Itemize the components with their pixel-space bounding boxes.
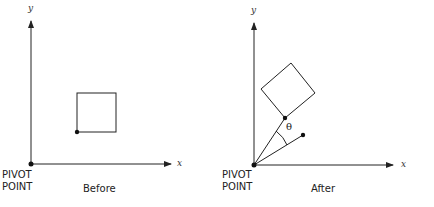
after-original-dot: [301, 133, 305, 137]
after-pivot-dot: [252, 163, 257, 168]
after-pivot-label-2: POINT: [222, 181, 252, 193]
after-rotated-dot: [283, 116, 287, 120]
after-original-line: [254, 135, 303, 165]
after-panel: [252, 23, 394, 168]
after-rotated-square: [261, 63, 315, 118]
theta-label: θ: [286, 121, 292, 132]
after-x-label: x: [401, 159, 406, 169]
before-pivot-dot: [29, 162, 34, 167]
before-square: [77, 93, 116, 132]
angle-arc: [276, 131, 287, 145]
after-caption: After: [311, 183, 335, 195]
before-x-label: x: [177, 158, 182, 168]
after-y-label: y: [251, 5, 256, 15]
after-pivot-label-1: PIVOT: [222, 169, 252, 181]
rotation-diagram: [0, 0, 434, 207]
before-pivot-label-1: PIVOT: [2, 169, 32, 181]
before-caption: Before: [83, 183, 116, 195]
before-panel: [29, 21, 172, 167]
before-pivot-label-2: POINT: [2, 181, 32, 193]
after-rotated-line: [254, 118, 285, 165]
before-square-corner-dot: [75, 130, 79, 134]
before-y-label: y: [28, 3, 33, 13]
